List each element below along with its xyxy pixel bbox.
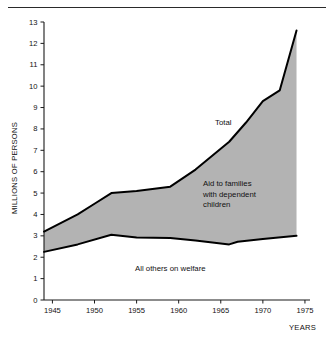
annotation-total: Total bbox=[215, 118, 232, 127]
annotation-line: children bbox=[203, 200, 230, 209]
y-axis-tick-labels: 012345678910111213 bbox=[29, 18, 37, 305]
y-tick-label: 3 bbox=[33, 231, 37, 240]
y-tick-label: 0 bbox=[33, 296, 37, 305]
y-tick-label: 11 bbox=[30, 60, 38, 69]
y-tick-label: 1 bbox=[33, 274, 37, 283]
y-tick-label: 9 bbox=[33, 103, 37, 112]
y-tick-label: 2 bbox=[33, 253, 37, 262]
x-tick-label: 1950 bbox=[86, 306, 103, 315]
x-tick-label: 1975 bbox=[296, 306, 313, 315]
x-axis-title: YEARS bbox=[289, 323, 316, 332]
y-tick-label: 4 bbox=[33, 210, 37, 219]
x-tick-label: 1960 bbox=[170, 306, 187, 315]
annotation-line: Aid to families bbox=[203, 179, 252, 188]
chart-figure: 012345678910111213 194519501955196019651… bbox=[0, 0, 331, 344]
y-tick-label: 13 bbox=[29, 18, 37, 27]
x-tick-label: 1965 bbox=[212, 306, 229, 315]
x-tick-label: 1955 bbox=[128, 306, 145, 315]
y-tick-label: 5 bbox=[33, 189, 37, 198]
shaded-band-afdc bbox=[44, 31, 297, 252]
y-tick-label: 10 bbox=[29, 82, 37, 91]
y-tick-label: 7 bbox=[33, 146, 37, 155]
y-tick-label: 6 bbox=[33, 167, 37, 176]
y-axis-title: MILLIONS OF PERSONS bbox=[10, 122, 19, 214]
annotation-line: with dependent bbox=[202, 190, 257, 199]
annotation-others: All others on welfare bbox=[135, 264, 206, 273]
x-tick-label: 1970 bbox=[254, 306, 271, 315]
annotation-line: All others on welfare bbox=[135, 264, 206, 273]
x-axis-tick-labels: 1945195019551960196519701975 bbox=[44, 306, 313, 315]
y-tick-label: 8 bbox=[33, 124, 37, 133]
y-tick-label: 12 bbox=[29, 39, 37, 48]
annotation-line: Total bbox=[215, 118, 232, 127]
x-tick-label: 1945 bbox=[44, 306, 61, 315]
area-chart: 012345678910111213 194519501955196019651… bbox=[0, 0, 331, 344]
